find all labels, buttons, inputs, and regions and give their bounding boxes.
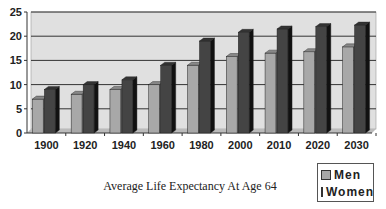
women-swatch-icon [321, 187, 323, 197]
svg-text:2010: 2010 [267, 139, 291, 151]
svg-text:1960: 1960 [150, 139, 174, 151]
svg-text:0: 0 [16, 127, 22, 139]
svg-text:2030: 2030 [344, 139, 368, 151]
legend: Men Women [317, 163, 374, 202]
legend-item-women: Women [321, 183, 370, 200]
legend-label-men: Men [334, 168, 361, 182]
chart-title: Average Life Expectancy At Age 64 [80, 179, 300, 194]
svg-text:15: 15 [10, 54, 22, 66]
svg-text:2020: 2020 [306, 139, 330, 151]
svg-text:5: 5 [16, 103, 22, 115]
svg-text:2000: 2000 [228, 139, 252, 151]
legend-item-men: Men [321, 166, 370, 183]
svg-text:25: 25 [10, 6, 22, 18]
svg-text:1900: 1900 [34, 139, 58, 151]
svg-text:10: 10 [10, 79, 22, 91]
svg-text:1980: 1980 [189, 139, 213, 151]
svg-text:20: 20 [10, 30, 22, 42]
svg-text:1940: 1940 [112, 139, 136, 151]
men-swatch-icon [321, 170, 331, 180]
legend-label-women: Women [326, 185, 374, 199]
svg-text:1920: 1920 [73, 139, 97, 151]
